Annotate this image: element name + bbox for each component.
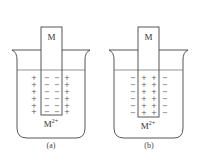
solution-charge: + [63, 109, 71, 116]
electrode-charge: + [150, 110, 158, 117]
ion-charge-a: 2+ [52, 118, 58, 124]
electrode-label-b: M [138, 32, 159, 42]
solution-charge: − [161, 110, 169, 117]
ion-charge-b: 2+ [149, 120, 155, 126]
ion-label-b: M2+ [133, 120, 163, 131]
electrode-charge: + [140, 110, 148, 117]
solution-charge: − [129, 110, 137, 117]
caption-a: (a) [36, 141, 66, 150]
electrode-label-a: M [41, 32, 62, 42]
solution-charge: + [30, 109, 38, 116]
caption-b: (b) [134, 141, 164, 150]
electrode-charge: − [53, 109, 61, 116]
ion-symbol-b: M [141, 121, 149, 131]
ion-label-a: M2+ [36, 118, 66, 129]
ion-symbol-a: M [44, 119, 52, 129]
electrode-charge: − [43, 109, 51, 116]
